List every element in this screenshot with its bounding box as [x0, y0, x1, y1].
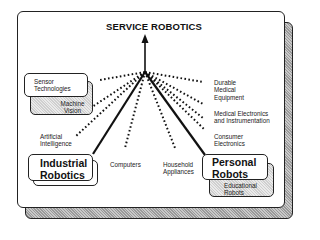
- educational-robots-label: Educational Robots: [224, 182, 268, 197]
- artificial-intelligence-label: Artificial Intelligence: [40, 133, 80, 148]
- machine-vision-label: Machine Vision: [53, 100, 92, 115]
- sensor-technologies-box: Sensor Technologies: [24, 73, 88, 97]
- personal-robots-box: Personal Robots: [202, 154, 268, 180]
- durable-medical-equipment-label: Durable Medical Equipment: [214, 79, 254, 101]
- sensor-technologies-label: Sensor Technologies: [34, 78, 74, 93]
- industrial-robotics-label: Industrial Robotics: [40, 158, 90, 181]
- arrow-head-icon: [142, 34, 149, 43]
- dotted-consumer: [145, 72, 205, 130]
- dotted-vision: [92, 72, 145, 107]
- medical-electronics-label: Medical Electronics and Instrumentation: [214, 110, 278, 125]
- industrial-robotics-box: Industrial Robotics: [28, 154, 93, 181]
- household-appliances-label: Household Appliances: [163, 161, 203, 176]
- dotted-household: [145, 72, 175, 148]
- computers-label: Computers: [110, 161, 141, 168]
- personal-solid-line: [145, 72, 205, 155]
- personal-robots-label: Personal Robots: [212, 157, 264, 180]
- consumer-electronics-label: Consumer Electronics: [214, 133, 254, 148]
